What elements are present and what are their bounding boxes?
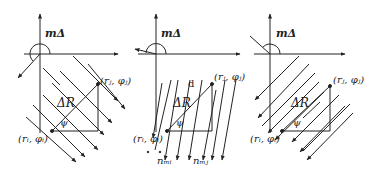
- point-j-label: (rⱼ, φⱼ): [214, 72, 245, 82]
- point-i: [281, 130, 284, 133]
- direction-arrow: [135, 49, 156, 54]
- point-i-label: (rᵢ, φᵢ): [133, 134, 163, 144]
- direction-arrow: [250, 36, 270, 54]
- point-j-label: (rⱼ, φⱼ): [333, 75, 364, 85]
- angle-label-m-delta: mΔ: [45, 28, 65, 39]
- point-i-label: (rᵢ, φᵢ): [250, 134, 280, 144]
- point-j-label: (rⱼ, φⱼ): [100, 76, 131, 86]
- angle-label-m-delta: mΔ: [276, 28, 296, 39]
- delta-r-label: ΔR: [57, 97, 75, 109]
- normal-i-label: nₘᵢ: [157, 156, 172, 166]
- point-i-label: (rᵢ, φᵢ): [18, 134, 48, 144]
- psi-label: ψ: [293, 118, 301, 128]
- normal-j-label: nₘⱼ: [193, 156, 208, 166]
- delta-r-label: ΔR: [173, 97, 191, 109]
- angle-arc: [263, 44, 280, 54]
- point-i: [51, 130, 54, 133]
- angle-label-m-delta: mΔ: [161, 28, 181, 39]
- point-i: [166, 130, 169, 133]
- line-spacing-d-label: d: [188, 79, 194, 89]
- psi-label: ψ: [60, 118, 68, 128]
- parallel-lines: [153, 80, 236, 160]
- psi-label: ψ: [176, 118, 184, 128]
- dot-2: [159, 151, 161, 153]
- delta-r-label: ΔR: [291, 97, 309, 109]
- point-j: [211, 83, 214, 86]
- dot-1: [147, 151, 149, 153]
- point-j: [329, 85, 332, 88]
- parallel-lines: [26, 56, 125, 162]
- direction-arrow: [18, 54, 40, 78]
